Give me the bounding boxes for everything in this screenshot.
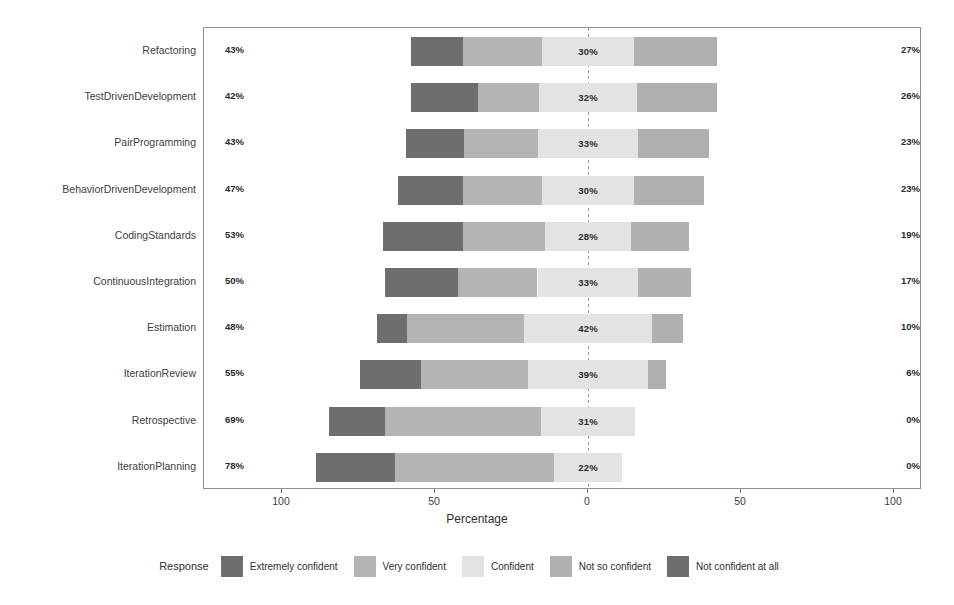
left-total-percentage: 42%: [225, 73, 265, 119]
right-total-percentage: 10%: [880, 304, 920, 350]
x-axis-tick-mark: [281, 489, 282, 493]
row-labels: IterationReview55%6%: [0, 350, 954, 396]
x-axis-tick-mark: [740, 489, 741, 493]
diverging-stacked-bar-chart: 30%32%33%30%28%33%42%39%31%22% Refactori…: [0, 0, 954, 605]
right-total-percentage: 0%: [880, 397, 920, 443]
legend-item-label: Very confident: [383, 561, 446, 572]
left-total-percentage: 69%: [225, 397, 265, 443]
category-label: Retrospective: [0, 397, 196, 443]
left-total-percentage: 47%: [225, 166, 265, 212]
category-label: CodingStandards: [0, 212, 196, 258]
category-label: TestDrivenDevelopment: [0, 73, 196, 119]
legend-item[interactable]: Extremely confident: [221, 556, 338, 577]
row-labels: Estimation48%10%: [0, 304, 954, 350]
legend-item[interactable]: Very confident: [354, 556, 446, 577]
left-total-percentage: 43%: [225, 27, 265, 73]
category-label: PairProgramming: [0, 119, 196, 165]
row-labels: CodingStandards53%19%: [0, 212, 954, 258]
legend-item[interactable]: Not confident at all: [667, 556, 779, 577]
category-label: ContinuousIntegration: [0, 258, 196, 304]
legend-title: Response: [159, 560, 209, 572]
category-label: BehaviorDrivenDevelopment: [0, 166, 196, 212]
right-total-percentage: 19%: [880, 212, 920, 258]
row-labels: ContinuousIntegration50%17%: [0, 258, 954, 304]
x-axis-tick-label: 100: [868, 495, 918, 507]
category-label: Refactoring: [0, 27, 196, 73]
right-total-percentage: 23%: [880, 119, 920, 165]
x-axis-tick-label: 50: [409, 495, 459, 507]
legend-item-label: Confident: [491, 561, 534, 572]
x-axis-title: Percentage: [0, 512, 954, 526]
legend-item[interactable]: Confident: [462, 556, 534, 577]
category-label: IterationReview: [0, 350, 196, 396]
row-labels: TestDrivenDevelopment42%26%: [0, 73, 954, 119]
x-axis-tick-mark: [587, 489, 588, 493]
right-total-percentage: 26%: [880, 73, 920, 119]
left-total-percentage: 55%: [225, 350, 265, 396]
legend-item-label: Not confident at all: [696, 561, 779, 572]
legend: Response Extremely confidentVery confide…: [0, 551, 954, 581]
left-total-percentage: 53%: [225, 212, 265, 258]
legend-swatch-icon: [667, 556, 689, 577]
legend-swatch-icon: [462, 556, 484, 577]
category-label: Estimation: [0, 304, 196, 350]
x-axis-tick-label: 0: [562, 495, 612, 507]
row-labels: IterationPlanning78%0%: [0, 443, 954, 489]
legend-item[interactable]: Not so confident: [550, 556, 651, 577]
legend-item-label: Extremely confident: [250, 561, 338, 572]
x-axis-tick-label: 50: [715, 495, 765, 507]
left-total-percentage: 43%: [225, 119, 265, 165]
legend-items: Extremely confidentVery confidentConfide…: [221, 556, 795, 577]
right-total-percentage: 27%: [880, 27, 920, 73]
category-label: IterationPlanning: [0, 443, 196, 489]
left-total-percentage: 48%: [225, 304, 265, 350]
row-labels: Retrospective69%0%: [0, 397, 954, 443]
legend-swatch-icon: [221, 556, 243, 577]
left-total-percentage: 50%: [225, 258, 265, 304]
x-axis-tick-mark: [434, 489, 435, 493]
row-labels: BehaviorDrivenDevelopment47%23%: [0, 166, 954, 212]
right-total-percentage: 6%: [880, 350, 920, 396]
row-labels: Refactoring43%27%: [0, 27, 954, 73]
right-total-percentage: 0%: [880, 443, 920, 489]
right-total-percentage: 23%: [880, 166, 920, 212]
legend-swatch-icon: [354, 556, 376, 577]
left-total-percentage: 78%: [225, 443, 265, 489]
x-axis-tick-mark: [893, 489, 894, 493]
legend-item-label: Not so confident: [579, 561, 651, 572]
x-axis-tick-label: 100: [256, 495, 306, 507]
right-total-percentage: 17%: [880, 258, 920, 304]
row-labels: PairProgramming43%23%: [0, 119, 954, 165]
legend-swatch-icon: [550, 556, 572, 577]
